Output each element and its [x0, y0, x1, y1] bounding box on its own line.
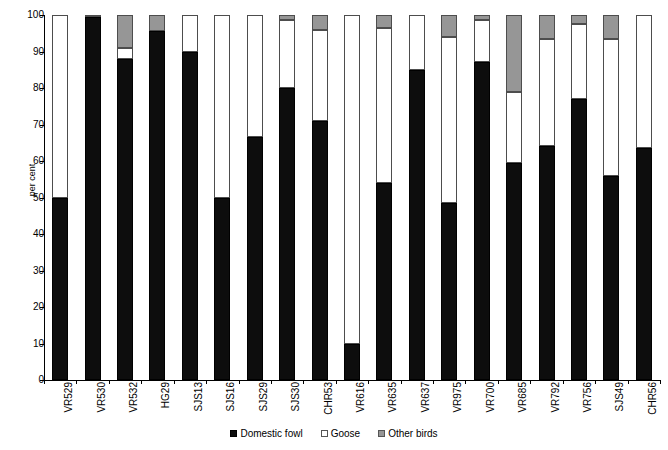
bar-segment-domestic-fowl: [149, 31, 165, 380]
bars-layer: [44, 15, 660, 380]
bar-segment-goose: [441, 37, 457, 203]
bar-segment-goose: [344, 15, 360, 344]
bar-column: [506, 15, 522, 380]
bar-segment-goose: [571, 24, 587, 99]
x-tick-mark: [336, 380, 337, 384]
bar-segment-goose: [409, 15, 425, 70]
legend-label: Other birds: [388, 428, 437, 439]
x-tick-mark: [368, 380, 369, 384]
bar-segment-domestic-fowl: [571, 99, 587, 380]
x-tick-mark: [303, 380, 304, 384]
bar-column: [603, 15, 619, 380]
x-tick-mark: [271, 380, 272, 384]
bar-column: [117, 15, 133, 380]
x-tick-mark: [498, 380, 499, 384]
legend-swatch-goose-icon: [321, 430, 328, 437]
x-tick-mark: [76, 380, 77, 384]
bar-segment-goose: [85, 15, 101, 17]
bar-column: [182, 15, 198, 380]
bar-segment-domestic-fowl: [636, 148, 652, 380]
x-tick-mark: [660, 380, 661, 384]
bar-segment-goose: [312, 30, 328, 121]
bar-segment-other-birds: [441, 15, 457, 37]
x-tick-mark: [465, 380, 466, 384]
bar-segment-goose: [603, 39, 619, 176]
bar-segment-other-birds: [312, 15, 328, 30]
y-tick-label: 80: [10, 83, 44, 93]
bar-segment-domestic-fowl: [312, 121, 328, 380]
legend-swatch-domestic-icon: [230, 430, 237, 437]
y-tick-label: 70: [10, 120, 44, 130]
x-tick-mark: [563, 380, 564, 384]
x-tick-mark: [44, 380, 45, 384]
x-tick-mark: [141, 380, 142, 384]
bar-column: [279, 15, 295, 380]
bar-segment-domestic-fowl: [344, 344, 360, 381]
bar-segment-other-birds: [117, 15, 133, 48]
bar-segment-domestic-fowl: [474, 62, 490, 380]
bar-segment-goose: [506, 92, 522, 163]
bar-segment-domestic-fowl: [506, 163, 522, 380]
bar-segment-domestic-fowl: [52, 198, 68, 381]
y-tick-label: 60: [10, 156, 44, 166]
bar-segment-goose: [214, 15, 230, 198]
bar-column: [571, 15, 587, 380]
bar-segment-other-birds: [149, 15, 165, 31]
bar-column: [85, 15, 101, 380]
bar-column: [52, 15, 68, 380]
legend-label: Goose: [331, 428, 360, 439]
bar-segment-domestic-fowl: [441, 203, 457, 380]
bar-segment-domestic-fowl: [247, 137, 263, 380]
x-tick-mark: [109, 380, 110, 384]
bar-segment-other-birds: [474, 15, 490, 20]
bar-segment-other-birds: [603, 15, 619, 39]
bar-column: [539, 15, 555, 380]
x-tick-mark: [174, 380, 175, 384]
bar-column: [376, 15, 392, 380]
y-tick-label: 90: [10, 47, 44, 57]
bar-segment-goose: [52, 15, 68, 198]
legend-item: Goose: [321, 428, 360, 439]
bar-segment-domestic-fowl: [603, 176, 619, 380]
bar-segment-domestic-fowl: [117, 59, 133, 380]
bar-column: [149, 15, 165, 380]
bar-segment-goose: [474, 20, 490, 62]
bar-segment-goose: [247, 15, 263, 137]
bar-column: [312, 15, 328, 380]
y-axis-ticks: 0102030405060708090100: [0, 0, 44, 450]
bar-column: [441, 15, 457, 380]
bar-segment-goose: [182, 15, 198, 52]
bar-column: [344, 15, 360, 380]
y-tick-label: 10: [10, 339, 44, 349]
bar-segment-other-birds: [376, 15, 392, 28]
legend-item: Domestic fowl: [230, 428, 302, 439]
bar-segment-domestic-fowl: [539, 146, 555, 380]
bar-segment-domestic-fowl: [376, 183, 392, 380]
bar-segment-domestic-fowl: [182, 52, 198, 381]
bar-segment-other-birds: [506, 15, 522, 92]
y-tick-label: 50: [10, 193, 44, 203]
y-tick-label: 20: [10, 302, 44, 312]
bar-column: [409, 15, 425, 380]
bar-column: [636, 15, 652, 380]
bar-segment-goose: [117, 48, 133, 59]
bar-segment-goose: [376, 28, 392, 183]
x-tick-mark: [206, 380, 207, 384]
bar-column: [247, 15, 263, 380]
stacked-bar-chart: per cent 0102030405060708090100 VR529VR5…: [0, 0, 668, 450]
chart-legend: Domestic fowlGooseOther birds: [0, 428, 668, 439]
bar-segment-other-birds: [571, 15, 587, 24]
x-tick-mark: [530, 380, 531, 384]
x-tick-mark: [595, 380, 596, 384]
bar-segment-other-birds: [539, 15, 555, 39]
bar-segment-domestic-fowl: [279, 88, 295, 380]
x-tick-mark: [433, 380, 434, 384]
x-tick-mark: [401, 380, 402, 384]
legend-label: Domestic fowl: [240, 428, 302, 439]
legend-swatch-other-icon: [378, 430, 385, 437]
bar-column: [214, 15, 230, 380]
bar-segment-goose: [279, 20, 295, 88]
bar-segment-domestic-fowl: [85, 17, 101, 380]
x-tick-mark: [628, 380, 629, 384]
y-tick-label: 30: [10, 266, 44, 276]
